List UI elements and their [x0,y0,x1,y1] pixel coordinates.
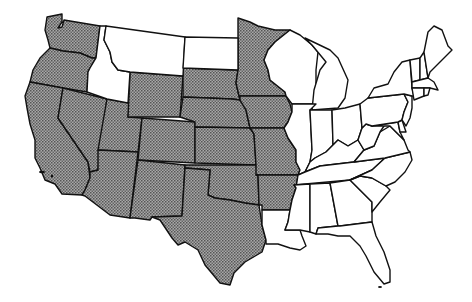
us-map [0,0,472,302]
state-colorado [138,118,195,163]
state-maine [424,26,452,78]
state-florida [316,222,390,284]
florida-keys [378,286,382,288]
state-wyoming [128,72,183,117]
state-vermont [410,58,420,82]
state-connecticut [412,88,424,100]
state-rhode-island [424,88,430,96]
state-north-dakota [183,37,238,70]
us-map-svg [0,0,472,302]
state-south-dakota [183,68,240,100]
channel-islands-2 [51,175,53,178]
state-new-mexico [130,160,185,220]
channel-islands [39,171,45,173]
state-new-york [368,60,414,98]
state-montana [104,26,185,76]
state-kansas [195,127,256,165]
